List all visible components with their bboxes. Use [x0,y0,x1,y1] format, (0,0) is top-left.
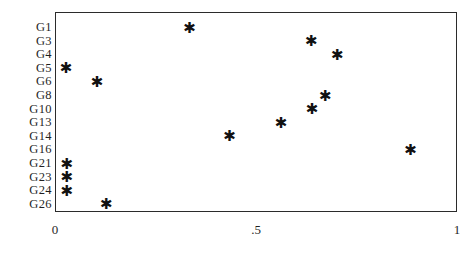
data-point-g13: ✱ [275,118,286,129]
data-point-g24: ✱ [61,186,72,197]
y-axis-label-g10: G10 [0,103,52,116]
y-axis-label-g23: G23 [0,171,52,184]
data-point-g26: ✱ [100,199,111,210]
y-axis-label-g8: G8 [0,89,52,102]
y-axis-label-g3: G3 [0,35,52,48]
data-point-g4: ✱ [331,50,342,61]
data-point-g6: ✱ [91,77,102,88]
y-axis-category-labels: G1G3G4G5G6G8G10G13G14G16G21G23G24G26 [0,12,52,212]
data-point-g14: ✱ [223,131,234,142]
y-axis-label-g26: G26 [0,198,52,211]
data-point-g5: ✱ [60,63,71,74]
y-axis-label-g13: G13 [0,116,52,129]
y-axis-label-g14: G14 [0,130,52,143]
y-axis-label-g5: G5 [0,62,52,75]
data-point-g8: ✱ [319,91,330,102]
x-axis-tick-p5: .5 [251,222,261,237]
y-axis-label-g1: G1 [0,21,52,34]
x-axis-tick-0: 0 [52,222,59,237]
y-axis-label-g4: G4 [0,48,52,61]
y-axis-label-g24: G24 [0,184,52,197]
data-point-g1: ✱ [183,23,194,34]
scatter-chart-figure: G1G3G4G5G6G8G10G13G14G16G21G23G24G26 ✱✱✱… [0,0,476,255]
x-axis-tick-1: 1 [454,222,461,237]
data-point-g3: ✱ [305,36,316,47]
y-axis-label-g16: G16 [0,143,52,156]
data-point-g16: ✱ [404,145,415,156]
data-point-g10: ✱ [306,104,317,115]
y-axis-label-g21: G21 [0,157,52,170]
plot-area: ✱✱✱✱✱✱✱✱✱✱✱✱✱✱ [55,12,457,212]
y-axis-label-g6: G6 [0,75,52,88]
x-axis-tick-labels: 0.51 [0,222,476,246]
